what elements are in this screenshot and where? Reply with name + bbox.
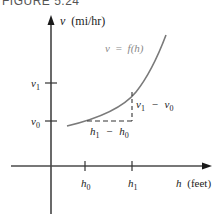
v0-label: v0 <box>31 115 40 130</box>
h1-label: h1 <box>128 177 138 192</box>
h0-label: h0 <box>81 177 91 192</box>
graph: v (mi/hr) v = f(h) v1 v0 h0 h1 h (feet) … <box>0 0 222 217</box>
y-axis <box>48 15 55 214</box>
x-axis-label: h (feet) <box>176 177 211 190</box>
x-axis-arrow-icon <box>202 163 212 170</box>
v1-label: v1 <box>31 77 40 92</box>
y-axis-label: v (mi/hr) <box>60 14 105 28</box>
curve-label: v = f(h) <box>105 42 144 55</box>
delta-h-label: h1 − h0 <box>90 125 129 140</box>
y-axis-arrow-icon <box>48 15 55 25</box>
delta-v-label: v1 − v0 <box>136 98 174 113</box>
x-axis <box>11 163 212 170</box>
